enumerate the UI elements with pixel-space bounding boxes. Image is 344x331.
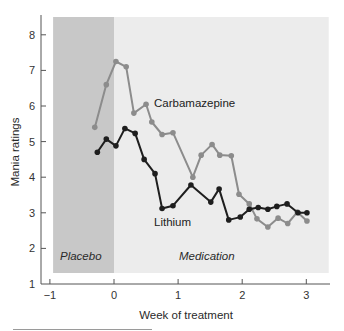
placebo-region (53, 17, 114, 273)
y-tick-label: 1 (29, 278, 35, 290)
data-point (255, 205, 261, 211)
x-tick-label: 0 (111, 289, 117, 301)
data-point (285, 221, 291, 227)
data-point (209, 142, 215, 148)
y-tick-label: 4 (29, 171, 35, 183)
data-point (95, 149, 101, 155)
data-point (295, 210, 301, 216)
data-point (237, 214, 243, 220)
x-tick-label: 3 (303, 289, 309, 301)
data-point (304, 210, 310, 216)
footnote-divider (13, 329, 152, 330)
data-point (123, 64, 129, 70)
data-point (159, 132, 165, 138)
data-point (246, 206, 252, 212)
data-point (170, 130, 176, 136)
y-tick-label: 2 (29, 242, 35, 254)
data-point (131, 110, 137, 116)
data-point (246, 201, 252, 207)
data-point (149, 119, 155, 125)
y-tick-label: 8 (29, 29, 35, 41)
x-tick-label: −1 (44, 289, 57, 301)
data-point (265, 206, 271, 212)
data-point (132, 131, 138, 137)
data-point (104, 82, 110, 88)
data-point (113, 59, 119, 65)
data-point (216, 186, 222, 192)
data-point (229, 153, 235, 159)
medication-label: Medication (179, 250, 235, 262)
medication-region (114, 17, 329, 273)
y-tick-label: 7 (29, 64, 35, 76)
x-tick-label: 2 (239, 289, 245, 301)
data-point (198, 152, 204, 158)
carbamazepine-label: Carbamazepine (154, 97, 235, 109)
data-point (284, 201, 290, 207)
data-point (217, 152, 223, 158)
data-point (152, 171, 158, 177)
data-point (104, 136, 110, 142)
data-point (170, 203, 176, 209)
data-point (274, 204, 280, 210)
data-point (143, 101, 149, 107)
y-tick-label: 3 (29, 207, 35, 219)
y-tick-label: 5 (29, 136, 35, 148)
data-point (141, 157, 147, 163)
lithium-label: Lithium (154, 216, 191, 228)
x-axis-title: Week of treatment (139, 309, 234, 321)
mania-ratings-chart: 12345678−10123 Carbamazepine Lithium Pla… (0, 0, 344, 331)
data-point (208, 199, 214, 205)
data-point (190, 174, 196, 180)
data-point (159, 206, 165, 212)
treatment-regions (53, 17, 329, 273)
data-point (275, 215, 281, 221)
data-point (188, 182, 194, 188)
data-point (226, 217, 232, 223)
data-point (236, 191, 242, 197)
placebo-label: Placebo (60, 250, 102, 262)
x-tick-label: 1 (175, 289, 181, 301)
data-point (122, 126, 128, 132)
y-axis-title: Mania ratings (9, 117, 21, 186)
data-point (265, 224, 271, 230)
y-tick-label: 6 (29, 100, 35, 112)
data-point (254, 216, 260, 222)
data-point (92, 125, 98, 131)
data-point (113, 143, 119, 149)
data-point (304, 218, 310, 224)
